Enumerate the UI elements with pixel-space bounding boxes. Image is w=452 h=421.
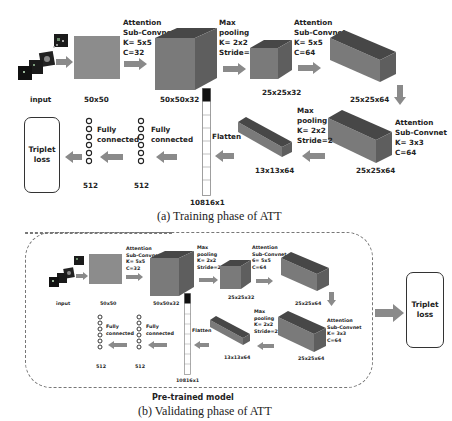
arrow-right-icon [298, 62, 322, 74]
pool2-label: 13x13x64 [255, 166, 294, 176]
conv1-block [155, 28, 217, 92]
arrow-down-icon [394, 85, 406, 105]
arrow-right-icon [56, 56, 74, 68]
pretrained-model-label: Pre-trained model [152, 393, 234, 402]
arrow-left-icon [302, 150, 326, 162]
conv1-label: 50x50x32 [153, 301, 179, 308]
fc1-label: 512 [83, 181, 98, 191]
triplet-loss-label: Triplet loss [28, 145, 55, 165]
fc1-header: Fully connected [106, 324, 134, 337]
arrow-left-icon [65, 151, 83, 163]
pool1-header: Max pooling K= 2x2 Stride=2 [197, 245, 221, 271]
arrow-right-icon [223, 63, 247, 75]
map50-label: 50x50 [84, 95, 109, 105]
pool1-label: 25x25x32 [228, 295, 254, 302]
flatten-vector [202, 88, 211, 196]
pool1-block [250, 40, 292, 80]
conv1-label: 50x50x32 [160, 95, 199, 105]
fc1-header: Fully connected [97, 125, 139, 145]
map50-label: 50x50 [100, 301, 116, 308]
conv1-block [150, 251, 194, 297]
fc1-label: 512 [96, 364, 106, 371]
flatten-vector [184, 293, 191, 375]
pool1-label: 25x25x32 [262, 88, 301, 98]
pool1-block [220, 260, 251, 290]
caption-a: (a) Training phase of ATT [157, 209, 282, 224]
triplet-loss-box: Triplet loss [24, 117, 60, 193]
flatten-label: 10816x1 [176, 378, 199, 385]
fc2-header: Fully connected [146, 324, 174, 337]
input-label: input [30, 95, 51, 105]
arrow-left-icon [100, 151, 124, 163]
fc2-header: Fully connected [151, 125, 193, 145]
feature-map-50x50 [74, 36, 120, 79]
conv3-block [278, 311, 328, 353]
arrow-left-icon [257, 342, 275, 350]
conv3-header: Attention Sub-Convnet K= 3x3 C=64 [395, 118, 447, 158]
flatten-header: Flatten [192, 328, 211, 335]
pool2-header: Max pooling K= 2x2 Stride=2 [297, 106, 333, 146]
arrow-left-icon [156, 151, 178, 163]
conv3-block [328, 110, 394, 164]
input-images-icon [44, 253, 84, 289]
conv3-label: 25x25x64 [356, 166, 395, 176]
pool2-block [210, 316, 252, 346]
arrow-right-icon [199, 276, 219, 284]
pool2-label: 13x13x64 [224, 355, 250, 362]
fc2-neurons [135, 314, 143, 354]
fc2-label: 512 [134, 181, 149, 191]
conv2-label: 25x25x64 [295, 301, 321, 308]
arrow-right-icon [256, 277, 274, 285]
caption-b: (b) Validating phase of ATT [138, 404, 272, 419]
triplet-loss-box: Triplet loss [406, 272, 444, 348]
flatten-label: 10816x1 [190, 198, 225, 208]
fc2-label: 512 [135, 364, 145, 371]
arrow-left-icon [148, 341, 168, 349]
arrow-left-icon [194, 341, 210, 349]
pool2-block [238, 117, 294, 157]
conv3-header: Attention Sub-Convnet K= 3x3 C=64 [327, 318, 362, 344]
arrow-right-icon [375, 304, 405, 322]
arrow-right-icon [126, 273, 144, 281]
flatten-header: Flatten [212, 132, 241, 142]
feature-map-50x50 [89, 254, 122, 284]
conv2-label: 25x25x64 [350, 95, 389, 105]
arrow-right-icon [76, 272, 88, 280]
fc1-neurons [96, 314, 104, 354]
fc1-neurons [84, 117, 94, 167]
triplet-loss-label: Triplet loss [411, 300, 438, 320]
input-label: input [56, 301, 70, 308]
conv2-block [330, 30, 398, 82]
arrow-right-icon [124, 58, 148, 70]
arrow-left-icon [215, 150, 235, 162]
pool2-header: Max pooling K= 2x2 Stride=2 [254, 309, 278, 335]
arrow-left-icon [108, 341, 128, 349]
conv2-block [281, 252, 331, 292]
arrow-down-icon [327, 292, 336, 306]
conv3-label: 25x25x64 [298, 356, 324, 363]
